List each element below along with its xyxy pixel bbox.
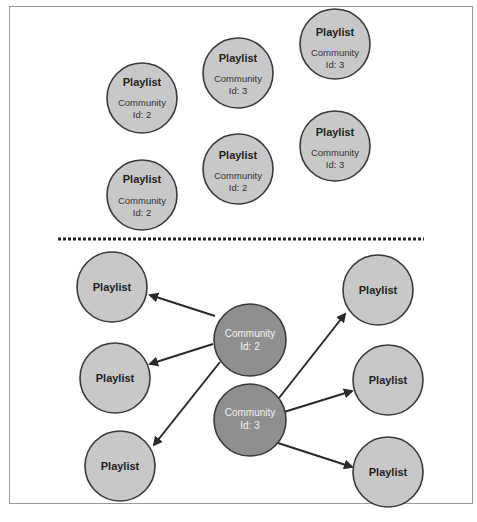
- edge-arrow: [150, 295, 215, 316]
- node-community-label: Community: [214, 73, 262, 84]
- playlist-node: Playlist Community Id: 2: [203, 134, 273, 204]
- node-community-label: Community: [118, 195, 166, 206]
- playlist-node: Playlist Community Id: 3: [300, 111, 370, 181]
- playlist-node: Playlist: [343, 255, 413, 325]
- node-title: Playlist: [101, 460, 140, 472]
- playlist-node: Playlist: [85, 431, 155, 501]
- playlist-node: Playlist Community Id: 3: [300, 9, 370, 79]
- node-community-id: Id: 3: [326, 59, 345, 70]
- node-community-label: Community: [311, 147, 359, 158]
- edge-arrow: [150, 344, 213, 364]
- edge-arrow: [154, 362, 220, 445]
- playlist-node: Playlist: [80, 343, 150, 413]
- node-community-label: Community: [214, 170, 262, 181]
- node-community-id: Id: 2: [133, 207, 152, 218]
- community-id: Id: 3: [240, 420, 260, 431]
- playlist-node: Playlist Community Id: 3: [203, 38, 273, 108]
- edge-arrow: [279, 314, 345, 398]
- bottom-section: Playlist Playlist Playlist Community Id:…: [77, 252, 423, 507]
- edge-arrow: [278, 443, 352, 467]
- node-title: Playlist: [316, 126, 355, 138]
- playlist-node: Playlist Community Id: 2: [107, 63, 177, 133]
- community-label: Community: [225, 407, 276, 418]
- community-id: Id: 2: [240, 341, 260, 352]
- node-title: Playlist: [123, 76, 162, 88]
- playlist-node: Playlist: [353, 345, 423, 415]
- node-community-label: Community: [311, 47, 359, 58]
- node-title: Playlist: [123, 173, 162, 185]
- node-title: Playlist: [219, 52, 258, 64]
- node-community-id: Id: 2: [229, 182, 248, 193]
- node-title: Playlist: [96, 372, 135, 384]
- node-community-id: Id: 3: [326, 159, 345, 170]
- node-title: Playlist: [316, 26, 355, 38]
- node-community-id: Id: 3: [229, 85, 248, 96]
- community-node: Community Id: 3: [214, 384, 286, 456]
- playlist-node: Playlist: [77, 252, 147, 322]
- playlist-node: Playlist: [353, 437, 423, 507]
- node-title: Playlist: [93, 281, 132, 293]
- node-title: Playlist: [369, 466, 408, 478]
- node-community-label: Community: [118, 97, 166, 108]
- edge-arrow: [284, 391, 352, 412]
- node-title: Playlist: [219, 149, 258, 161]
- top-section: Playlist Community Id: 2 Playlist Commun…: [107, 9, 370, 230]
- community-node: Community Id: 2: [214, 304, 286, 376]
- playlist-node: Playlist Community Id: 2: [107, 160, 177, 230]
- community-label: Community: [225, 328, 276, 339]
- node-title: Playlist: [359, 284, 398, 296]
- community-diagram: Playlist Community Id: 2 Playlist Commun…: [0, 0, 477, 522]
- node-community-id: Id: 2: [133, 109, 152, 120]
- node-title: Playlist: [369, 374, 408, 386]
